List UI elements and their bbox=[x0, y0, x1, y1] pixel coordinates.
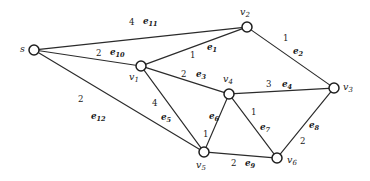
edge-name-e7: e7 bbox=[260, 123, 270, 132]
graph-edge-e8 bbox=[280, 92, 330, 154]
node-label-v3: v3 bbox=[343, 82, 353, 92]
edge-name-e3: e3 bbox=[196, 70, 206, 79]
graph-edge-e9 bbox=[209, 152, 271, 157]
node-label-v4: v4 bbox=[223, 74, 233, 84]
edge-name-e1: e1 bbox=[207, 43, 217, 52]
edge-weight-e7: 1 bbox=[251, 108, 256, 117]
edge-name-e12: e12 bbox=[91, 112, 105, 121]
graph-node-v6 bbox=[272, 153, 282, 163]
edge-weight-e10: 2 bbox=[96, 49, 101, 58]
node-layer bbox=[29, 22, 339, 163]
node-label-v1: v1 bbox=[129, 72, 139, 82]
graph-node-v3 bbox=[329, 83, 339, 93]
edge-weight-e4: 3 bbox=[266, 80, 271, 89]
edge-weight-e5: 4 bbox=[152, 99, 157, 108]
edge-weight-e6: 1 bbox=[203, 130, 208, 139]
graph-node-s bbox=[29, 45, 39, 55]
graph-edge-e12 bbox=[39, 53, 200, 149]
edge-name-e11: e11 bbox=[143, 17, 157, 26]
edge-name-e4: e4 bbox=[282, 80, 292, 89]
edge-name-e9: e9 bbox=[245, 159, 255, 168]
graph-node-v1 bbox=[136, 61, 146, 71]
graph-node-v2 bbox=[242, 22, 252, 32]
edge-weight-e1: 1 bbox=[190, 51, 195, 60]
node-label-v6: v6 bbox=[287, 155, 297, 165]
edge-name-e5: e5 bbox=[161, 113, 171, 122]
edge-weight-e2: 1 bbox=[283, 34, 288, 43]
graph-figure: sv1v2v3v4v5v6e11e21e32e43e54e61e71e82e92… bbox=[0, 0, 370, 181]
graph-edge-e6 bbox=[206, 99, 227, 147]
node-label-v2: v2 bbox=[240, 7, 250, 17]
node-label-v5: v5 bbox=[196, 160, 206, 170]
edge-weight-e9: 2 bbox=[231, 159, 236, 168]
graph-edge-e2 bbox=[251, 30, 329, 85]
edge-weight-e11: 4 bbox=[129, 18, 134, 27]
graph-node-v5 bbox=[199, 147, 209, 157]
edge-name-e6: e6 bbox=[209, 112, 219, 121]
edge-weight-e8: 2 bbox=[300, 137, 305, 146]
graph-node-v4 bbox=[224, 89, 234, 99]
edge-weight-e12: 2 bbox=[78, 95, 83, 104]
graph-canvas bbox=[0, 0, 370, 181]
node-label-s: s bbox=[20, 44, 25, 54]
edge-name-e8: e8 bbox=[309, 121, 319, 130]
graph-edge-e4 bbox=[234, 88, 328, 93]
edge-name-e10: e10 bbox=[110, 48, 124, 57]
edge-layer bbox=[39, 28, 331, 158]
edge-name-e2: e2 bbox=[293, 47, 303, 56]
edge-weight-e3: 2 bbox=[181, 70, 186, 79]
